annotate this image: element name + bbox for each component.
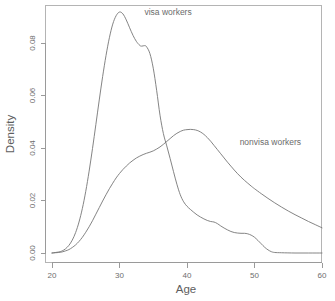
- x-tick-label: 40: [183, 271, 192, 280]
- plot-frame: [46, 6, 322, 263]
- y-tick-label: 0.04: [28, 140, 37, 156]
- density-plot-figure: 0.000.020.040.060.08 2030405060 visa wor…: [0, 0, 335, 301]
- x-tick-label-group: 2030405060: [48, 271, 327, 280]
- series-annotation: nonvisa workers: [240, 137, 301, 147]
- x-axis: 2030405060: [48, 263, 327, 281]
- x-tick-label: 50: [250, 271, 259, 280]
- y-tick-label: 0.06: [28, 87, 37, 103]
- y-axis: 0.000.020.040.060.08: [28, 35, 45, 261]
- y-tick-label: 0.02: [28, 192, 37, 208]
- x-tick-label: 20: [48, 271, 57, 280]
- series-group: [52, 12, 322, 253]
- chart-canvas: 0.000.020.040.060.08 2030405060 visa wor…: [0, 0, 335, 301]
- y-tick-label: 0.08: [28, 35, 37, 51]
- annotation-group: visa workersnonvisa workers: [144, 7, 301, 146]
- density-curve-visa-workers: [52, 12, 322, 253]
- y-tick-label-group: 0.000.020.040.060.08: [28, 35, 37, 261]
- x-axis-title: Age: [176, 283, 196, 295]
- y-axis-title: Density: [4, 115, 16, 154]
- x-tick-group: [52, 263, 322, 268]
- series-annotation: visa workers: [144, 7, 191, 17]
- x-tick-label: 30: [115, 271, 124, 280]
- y-tick-label: 0.00: [28, 245, 37, 261]
- x-tick-label: 60: [318, 271, 327, 280]
- y-tick-group: [41, 43, 46, 253]
